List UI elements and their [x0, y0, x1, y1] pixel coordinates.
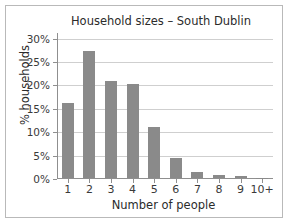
y-tick-label: 10%: [27, 126, 50, 138]
bar: [235, 176, 247, 178]
y-tick-label: 20%: [27, 79, 50, 91]
bar: [62, 103, 74, 178]
x-tick-label: 8: [216, 183, 223, 196]
x-tick-label: 10+: [251, 183, 274, 196]
bar: [105, 81, 117, 178]
x-tick-label: 9: [237, 183, 244, 196]
bar: [83, 51, 95, 178]
y-tick-label: 25%: [27, 56, 50, 68]
chart-frame: Household sizes – South Dublin % househo…: [5, 5, 283, 218]
y-tick-mark: [53, 85, 57, 86]
x-tick-label: 3: [108, 183, 115, 196]
chart-title: Household sizes – South Dublin: [46, 13, 276, 29]
x-axis-title: Number of people: [51, 198, 276, 213]
bar: [213, 175, 225, 178]
y-tick-mark: [53, 109, 57, 110]
bar: [127, 84, 139, 178]
y-tick-mark: [53, 179, 57, 180]
x-tick-label: 1: [64, 183, 71, 196]
x-tick-label: 6: [172, 183, 179, 196]
plot-area: 0%5%10%15%20%25%30% 12345678910+: [57, 33, 273, 179]
x-tick-label: 5: [151, 183, 158, 196]
y-tick-mark: [53, 62, 57, 63]
y-axis-line: [57, 33, 58, 179]
y-tick-label: 0%: [33, 173, 50, 185]
gridline: [58, 39, 273, 40]
bar: [148, 127, 160, 178]
y-tick-mark: [53, 156, 57, 157]
y-tick-label: 30%: [27, 33, 50, 45]
x-tick-label: 2: [86, 183, 93, 196]
y-tick-label: 5%: [33, 150, 50, 162]
x-tick-label: 4: [129, 183, 136, 196]
y-tick-label: 15%: [27, 103, 50, 115]
bar: [191, 172, 203, 178]
x-tick-label: 7: [194, 183, 201, 196]
y-tick-mark: [53, 39, 57, 40]
y-tick-mark: [53, 132, 57, 133]
chart-figure: Household sizes – South Dublin % househo…: [0, 0, 288, 223]
bar: [170, 158, 182, 178]
